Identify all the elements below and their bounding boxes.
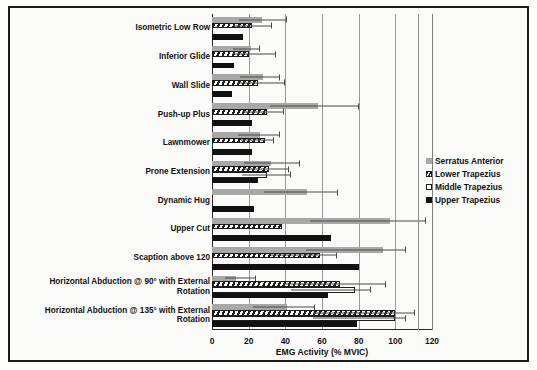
category-label: Inferior Glide: [24, 52, 210, 62]
legend-label: Lower Trapezius: [435, 169, 501, 179]
error-bar: [271, 255, 336, 256]
legend-label: Upper Trapezius: [435, 195, 500, 205]
error-bar: [270, 106, 358, 107]
category-label: Horizontal Abduction @ 135° with Externa…: [24, 306, 210, 325]
category-label: Upper Cut: [24, 224, 210, 234]
bar-slot: [212, 149, 432, 155]
bar-group: [212, 186, 432, 215]
x-tick-100: 100: [388, 336, 402, 346]
error-bar: [238, 134, 280, 135]
category-label: Dynamic Hug: [24, 196, 210, 206]
error-bar: [253, 307, 314, 308]
bar-uppertrap: [212, 321, 357, 327]
bar-group: [212, 244, 432, 273]
emg-activity-bar-chart-figure: Isometric Low RowInferior GlideWall Slid…: [0, 0, 537, 370]
bar-group: [212, 100, 432, 129]
plot-area: [212, 14, 432, 330]
error-bar: [237, 82, 285, 83]
category-label: Horizontal Abduction @ 90° with External…: [24, 277, 210, 296]
bar-uppertrap: [212, 91, 232, 97]
bar-uppertrap: [212, 34, 243, 40]
bar-uppertrap: [212, 206, 254, 212]
error-bar: [234, 25, 272, 26]
x-tick-120: 120: [425, 336, 439, 346]
legend-swatch-uppertrap: [426, 197, 432, 203]
bar-group: [212, 43, 432, 72]
bar-group: [212, 301, 432, 330]
category-label: Push-up Plus: [24, 110, 210, 120]
bar-uppertrap: [212, 178, 258, 184]
bar-group: [212, 14, 432, 43]
bar-slot: [212, 293, 432, 299]
x-tick-60: 60: [317, 336, 326, 346]
error-bar: [264, 192, 338, 193]
legend-item: Middle Trapezius: [426, 182, 504, 192]
category-label: Scaption above 120: [24, 253, 210, 263]
legend-swatch-middletrap: [426, 184, 432, 190]
category-label: Wall Slide: [24, 81, 210, 91]
error-bar: [310, 220, 427, 221]
legend-item: Upper Trapezius: [426, 195, 504, 205]
error-bar: [283, 284, 387, 285]
error-bar: [306, 249, 407, 250]
error-bar: [232, 54, 276, 55]
error-bar: [241, 140, 274, 141]
legend-item: Serratus Anterior: [426, 156, 504, 166]
legend-swatch-lowertrap: [426, 171, 432, 177]
bar-uppertrap: [212, 235, 331, 241]
error-bar: [233, 48, 259, 49]
category-label: Prone Extension: [24, 167, 210, 177]
x-axis-title: EMG Activity (% MVIC): [212, 347, 432, 357]
x-axis-line: [212, 329, 432, 330]
error-bar: [313, 318, 407, 319]
x-tick-40: 40: [281, 336, 290, 346]
bar-rows: [212, 14, 432, 330]
bar-slot: [212, 63, 432, 69]
bar-uppertrap: [212, 120, 252, 126]
error-bar: [242, 111, 283, 112]
bar-slot: [212, 34, 432, 40]
error-bar: [243, 169, 289, 170]
x-tick-0: 0: [210, 336, 215, 346]
legend-label: Middle Trapezius: [435, 182, 502, 192]
x-tick-20: 20: [244, 336, 253, 346]
bar-group: [212, 158, 432, 187]
category-label: Isometric Low Row: [24, 23, 210, 33]
legend-label: Serratus Anterior: [435, 156, 504, 166]
error-bar: [291, 289, 372, 290]
bar-group: [212, 215, 432, 244]
legend-item: Lower Trapezius: [426, 169, 504, 179]
error-bar: [242, 174, 291, 175]
chart-frame-border: Isometric Low RowInferior GlideWall Slid…: [8, 6, 529, 362]
x-tick-80: 80: [354, 336, 363, 346]
category-axis-labels: Isometric Low RowInferior GlideWall Slid…: [20, 14, 210, 330]
error-bar: [244, 163, 300, 164]
bar-uppertrap: [212, 149, 252, 155]
bar-group: [212, 129, 432, 158]
error-bar: [313, 312, 416, 313]
bar-slot: [212, 235, 432, 241]
error-bar: [240, 77, 280, 78]
bar-slot: [212, 91, 432, 97]
category-label: Lawnmower: [24, 138, 210, 148]
bar-uppertrap: [212, 264, 359, 270]
legend-swatch-serratus: [426, 158, 432, 164]
bar-slot: [212, 206, 432, 212]
error-bar: [225, 278, 256, 279]
bar-uppertrap: [212, 63, 234, 69]
error-bar: [239, 19, 287, 20]
bar-slot: [212, 321, 432, 327]
chart-legend: Serratus AnteriorLower TrapeziusMiddle T…: [426, 156, 504, 208]
bar-group: [212, 273, 432, 302]
bar-slot: [212, 120, 432, 126]
bar-slot: [212, 178, 432, 184]
bar-slot: [212, 264, 432, 270]
bar-uppertrap: [212, 293, 328, 299]
legend-divider: [418, 14, 419, 330]
bar-group: [212, 71, 432, 100]
